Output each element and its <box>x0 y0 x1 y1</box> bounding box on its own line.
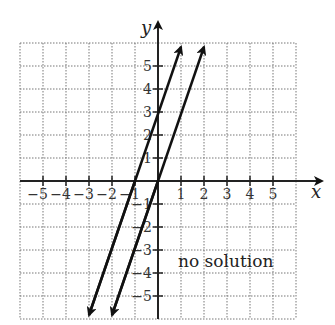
x-tick-label: −5 <box>27 186 48 202</box>
x-tick-label: −3 <box>73 186 94 202</box>
y-tick-label: −4 <box>131 265 152 281</box>
x-tick-label: 2 <box>200 186 209 202</box>
x-tick-label: −4 <box>50 186 71 202</box>
x-tick-label: 3 <box>223 186 232 202</box>
axes <box>20 22 322 319</box>
x-axis-label: x <box>311 181 321 202</box>
y-tick-label: −5 <box>131 288 152 304</box>
linear-system-graph: −5−4−3−2−112345−5−4−3−2−112345 x y no so… <box>0 0 335 325</box>
x-tick-label: 4 <box>246 186 255 202</box>
x-tick-label: 1 <box>177 186 186 202</box>
y-tick-label: 5 <box>143 58 152 74</box>
y-tick-label: 4 <box>143 81 152 97</box>
y-axis-label: y <box>140 17 152 38</box>
x-tick-label: 5 <box>269 186 278 202</box>
x-tick-label: −2 <box>96 186 117 202</box>
y-tick-label: 3 <box>143 104 152 120</box>
no-solution-annotation: no solution <box>178 251 273 271</box>
